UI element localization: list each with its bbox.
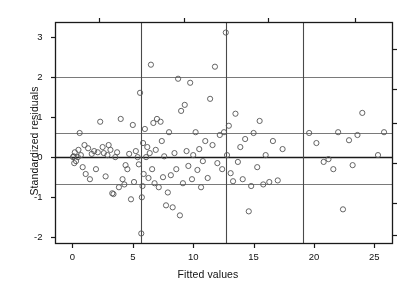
- y-tick-label: -2: [23, 231, 43, 242]
- y-tick-label: 1: [23, 111, 43, 122]
- y-tick-label: 3: [23, 31, 43, 42]
- x-tick-label: 10: [180, 251, 206, 262]
- y-tick-label: -1: [23, 191, 43, 202]
- y-tick-label: 0: [23, 151, 43, 162]
- x-tick-label: 5: [120, 251, 146, 262]
- y-tick-label: 2: [23, 71, 43, 82]
- scatter-plot-figure: Standardized residuals Fitted values 051…: [0, 0, 416, 295]
- x-tick-label: 15: [241, 251, 267, 262]
- x-tick-label: 25: [361, 251, 387, 262]
- x-tick-label: 20: [301, 251, 327, 262]
- x-tick-label: 0: [59, 251, 85, 262]
- x-axis-title: Fitted values: [0, 268, 416, 280]
